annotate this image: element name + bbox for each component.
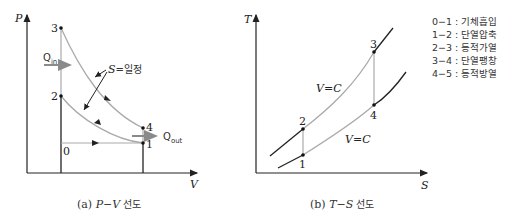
pv-label-3: 3 xyxy=(51,22,58,35)
pv-label-2: 2 xyxy=(51,90,58,103)
ts-line-4-ext xyxy=(374,72,406,105)
q-out-label: Qout xyxy=(163,131,183,145)
legend-item: 4−5 : 등적방열 xyxy=(432,67,497,80)
pv-curve-1-2 xyxy=(61,96,143,143)
pv-arrow-1-2 xyxy=(94,119,101,125)
pv-point-4 xyxy=(141,126,145,130)
pv-arrow-3-4 xyxy=(104,95,111,101)
ts-caption: (b) T−S 선도 xyxy=(310,196,374,211)
legend-item: 2−3 : 등적가열 xyxy=(432,41,497,54)
ts-label-1: 1 xyxy=(299,158,306,171)
isentropic-label: S=일정 xyxy=(108,63,142,76)
ts-label-2: 2 xyxy=(299,115,306,128)
ts-label-3: 3 xyxy=(370,38,377,51)
q-in-label: Qin xyxy=(43,52,57,66)
pv-label-1: 1 xyxy=(146,138,153,151)
ts-upper-curve-label: V=C xyxy=(316,82,342,95)
pv-v-axis-label: V xyxy=(190,178,199,191)
legend-item: 0−1 : 기체흡입 xyxy=(432,15,497,28)
ts-s-axis-label: S xyxy=(421,179,429,192)
pv-point-3 xyxy=(59,26,63,30)
process-legend: 0−1 : 기체흡입 1−2 : 단열압축 2−3 : 등적가열 3−4 : 단… xyxy=(432,15,497,80)
legend-item: 3−4 : 단열팽창 xyxy=(432,54,497,67)
pv-caption: (a) P−V 선도 xyxy=(77,196,141,211)
pv-arrow-0-1 xyxy=(92,140,99,146)
ts-point-1 xyxy=(301,153,305,157)
pv-point-2 xyxy=(59,94,63,98)
ts-lower-curve-label: V=C xyxy=(345,133,371,146)
pv-label-4: 4 xyxy=(146,121,153,134)
ts-diagram: T S 1 2 3 4 V=C V=C xyxy=(244,13,429,192)
ts-curve-1-4 xyxy=(303,105,374,155)
pv-curve-3-4 xyxy=(61,28,143,128)
ts-point-4 xyxy=(372,103,376,107)
pv-point-1 xyxy=(141,141,145,145)
ts-line-2-ext xyxy=(270,129,303,156)
pv-diagram: P V 3 2 4 1 0 Qin Qout S=일정 xyxy=(14,12,199,191)
legend-item: 1−2 : 단열압축 xyxy=(432,28,497,41)
pv-p-axis-label: P xyxy=(14,12,23,25)
ts-label-4: 4 xyxy=(370,109,377,122)
pv-label-0: 0 xyxy=(63,145,70,158)
ts-t-axis-label: T xyxy=(244,13,253,26)
